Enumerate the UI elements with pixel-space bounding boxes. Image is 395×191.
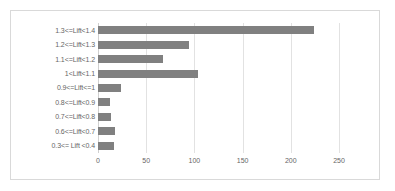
bar-row (98, 95, 339, 109)
y-axis-tick: 0.7<=Lift<0.8 (23, 110, 95, 124)
y-axis-tick-label: 0.3<= Lift <0.4 (52, 142, 95, 149)
bar (98, 127, 115, 135)
y-axis-tick-label: 1<Lift<1.1 (65, 70, 95, 77)
x-axis-tick-label: 250 (333, 157, 345, 164)
x-axis-tick-label: 0 (96, 157, 100, 164)
bar (98, 70, 198, 78)
y-axis-label-group: 1.3<=Lift<1.41.2<=Lift<1.31.1<=Lift<1.21… (23, 23, 95, 153)
plot-area (98, 23, 339, 153)
y-axis-tick: 1.1<=Lift<1.2 (23, 52, 95, 66)
x-axis-tick-label: 200 (285, 157, 297, 164)
x-axis-tick-label: 100 (189, 157, 201, 164)
bar-row (98, 110, 339, 124)
y-axis-tick-label: 0.8<=Lift<0.9 (55, 99, 95, 106)
x-axis-label-group: 050100150200250 (98, 157, 339, 169)
bar (98, 41, 189, 49)
y-axis-tick: 0.6<=Lift<0.7 (23, 124, 95, 138)
bar (98, 98, 110, 106)
y-axis-tick: 1.2<=Lift<1.3 (23, 37, 95, 51)
bar (98, 26, 314, 34)
gridline-250 (339, 23, 340, 153)
bar-row (98, 124, 339, 138)
y-axis-tick-label: 0.6<=Lift<0.7 (55, 128, 95, 135)
bar-row (98, 139, 339, 153)
bar-row (98, 23, 339, 37)
bar (98, 84, 121, 92)
y-axis-tick-label: 1.2<=Lift<1.3 (55, 41, 95, 48)
y-axis-tick-label: 1.3<=Lift<1.4 (55, 27, 95, 34)
y-axis-tick: 1<Lift<1.1 (23, 66, 95, 80)
chart-frame: 1.3<=Lift<1.41.2<=Lift<1.31.1<=Lift<1.21… (10, 10, 380, 180)
y-axis-tick-label: 1.1<=Lift<1.2 (55, 56, 95, 63)
y-axis-tick: 0.8<=Lift<0.9 (23, 95, 95, 109)
y-axis-tick: 0.9<=Lift<=1 (23, 81, 95, 95)
bar-row (98, 81, 339, 95)
x-axis-tick-label: 150 (237, 157, 249, 164)
bar (98, 55, 163, 63)
bar-row (98, 52, 339, 66)
bar-row (98, 37, 339, 51)
y-axis-tick: 1.3<=Lift<1.4 (23, 23, 95, 37)
y-axis-tick-label: 0.7<=Lift<0.8 (55, 113, 95, 120)
bar-series (98, 23, 339, 153)
bar (98, 142, 114, 150)
bar (98, 113, 111, 121)
bar-row (98, 66, 339, 80)
y-axis-tick: 0.3<= Lift <0.4 (23, 139, 95, 153)
x-axis-tick-label: 50 (142, 157, 150, 164)
y-axis-tick-label: 0.9<=Lift<=1 (57, 84, 95, 91)
